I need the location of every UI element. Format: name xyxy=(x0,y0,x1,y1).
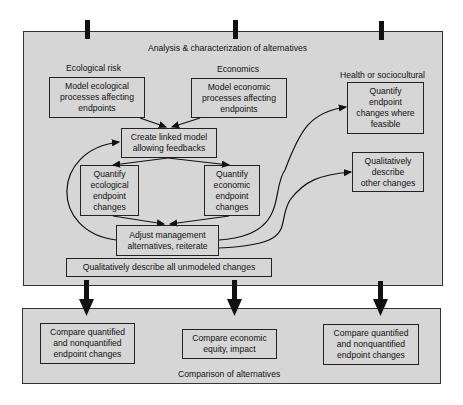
connector-arrows xyxy=(0,0,463,405)
